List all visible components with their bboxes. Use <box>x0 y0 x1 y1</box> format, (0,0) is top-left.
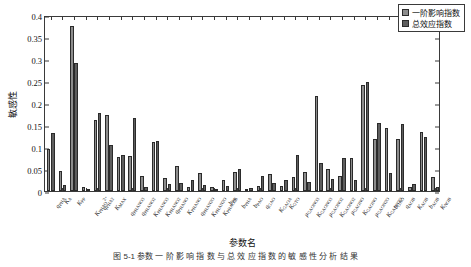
plot-area: 00.050.10.150.20.250.30.350.4 <box>44 16 440 192</box>
bar-total-effect <box>98 113 101 191</box>
bar-total-effect <box>121 155 124 191</box>
bar-group <box>220 17 232 191</box>
y-tick-label: 0.15 <box>27 123 42 132</box>
bar-group <box>348 17 360 191</box>
x-tick-label: bPHA <box>240 196 252 210</box>
bar-group <box>92 17 104 191</box>
bar-group <box>243 17 255 191</box>
legend-label-first-order: 一阶影响指数 <box>412 7 460 18</box>
bar-group <box>208 17 220 191</box>
figure-root: 敏感性 00.050.10.150.20.250.30.350.4 qPHAKA… <box>0 0 471 267</box>
bar-group <box>115 17 127 191</box>
bar-total-effect <box>203 185 206 191</box>
figure-caption: 图 5-1 参数 一 阶 影 响 指 数 与 总 效 应 指 数 的 敏 感 性… <box>0 250 471 261</box>
bar-first-order <box>187 187 190 191</box>
bar-total-effect <box>168 184 171 191</box>
legend-item-first-order: 一阶影响指数 <box>402 7 460 18</box>
y-tick-label: 0.25 <box>27 79 42 88</box>
bar-total-effect <box>179 183 182 191</box>
x-tick-label: bPAO <box>252 196 264 210</box>
bar-first-order <box>210 187 213 191</box>
bar-total-effect <box>249 188 252 191</box>
bar-first-order <box>233 172 236 191</box>
x-tick-label: KA <box>63 196 73 206</box>
bar-first-order <box>257 186 260 191</box>
bar-first-order <box>385 128 388 191</box>
bar-total-effect <box>109 145 112 191</box>
bar-group <box>161 17 173 191</box>
bar-group <box>325 17 337 191</box>
y-tick-label: 0.1 <box>31 145 42 154</box>
bar-group <box>103 17 115 191</box>
bar-group <box>371 17 383 191</box>
bar-first-order <box>198 173 201 191</box>
x-axis-title: 参数名 <box>44 236 440 249</box>
bar-total-effect <box>307 182 310 191</box>
bar-group <box>418 17 430 191</box>
bar-total-effect <box>74 63 77 191</box>
bar-first-order <box>338 176 341 191</box>
x-tick-label: qGAO <box>264 196 277 211</box>
bar-group <box>301 17 313 191</box>
bar-group <box>68 17 80 191</box>
bar-group <box>278 17 290 191</box>
bar-total-effect <box>296 155 299 191</box>
bar-total-effect <box>133 118 136 191</box>
bar-first-order <box>140 176 143 191</box>
legend-swatch-total-effect-icon <box>402 20 409 27</box>
bar-total-effect <box>424 137 427 191</box>
x-tick-label: bAOB <box>427 196 440 211</box>
bar-total-effect <box>354 180 357 191</box>
bar-group <box>196 17 208 191</box>
bar-total-effect <box>319 163 322 191</box>
bar-group <box>383 17 395 191</box>
chart-legend: 一阶影响指数 总效应指数 <box>398 4 465 32</box>
bar-total-effect <box>144 187 147 191</box>
bar-total-effect <box>436 187 439 191</box>
bar-group <box>173 17 185 191</box>
bar-group <box>138 17 150 191</box>
x-tick-label: KPP <box>76 196 87 208</box>
bar-first-order <box>361 85 364 191</box>
bar-total-effect <box>331 179 334 191</box>
bar-first-order <box>268 174 271 191</box>
bar-group <box>255 17 267 191</box>
bar-group <box>336 17 348 191</box>
bar-group <box>266 17 278 191</box>
bar-first-order <box>408 187 411 191</box>
x-axis-tick-labels: qPHAKAKPPKPHAO2+qPHA2KMAXqPHANO3qPHANO2K… <box>44 193 440 239</box>
bar-first-order <box>59 171 62 191</box>
bar-total-effect <box>63 185 66 191</box>
bar-first-order <box>47 149 50 191</box>
bar-first-order <box>94 120 97 191</box>
bar-first-order <box>245 189 248 191</box>
bar-total-effect <box>284 180 287 191</box>
y-tick-label: 0.05 <box>27 167 42 176</box>
x-tick-label: qAOB <box>404 196 417 211</box>
bar-total-effect <box>412 184 415 191</box>
bar-total-effect <box>366 82 369 191</box>
bar-group <box>406 17 418 191</box>
bar-first-order <box>70 26 73 191</box>
bar-total-effect <box>272 183 275 191</box>
legend-item-total-effect: 总效应指数 <box>402 18 460 29</box>
y-tick-label: 0 <box>38 189 42 198</box>
legend-swatch-first-order-icon <box>402 9 409 16</box>
bar-group <box>150 17 162 191</box>
bar-first-order <box>105 115 108 191</box>
bar-first-order <box>128 156 131 191</box>
bar-first-order <box>396 139 399 191</box>
y-tick-label: 0.35 <box>27 35 42 44</box>
bar-group <box>45 17 57 191</box>
bar-group <box>185 17 197 191</box>
bar-total-effect <box>261 176 264 191</box>
bar-first-order <box>431 177 434 191</box>
bar-total-effect <box>377 123 380 191</box>
y-tick-label: 0.3 <box>31 57 42 66</box>
bar-first-order <box>315 96 318 191</box>
bar-first-order <box>303 172 306 191</box>
y-axis-title: 敏感性 <box>6 91 19 118</box>
bar-group <box>80 17 92 191</box>
bar-group <box>359 17 371 191</box>
bar-total-effect <box>342 158 345 191</box>
